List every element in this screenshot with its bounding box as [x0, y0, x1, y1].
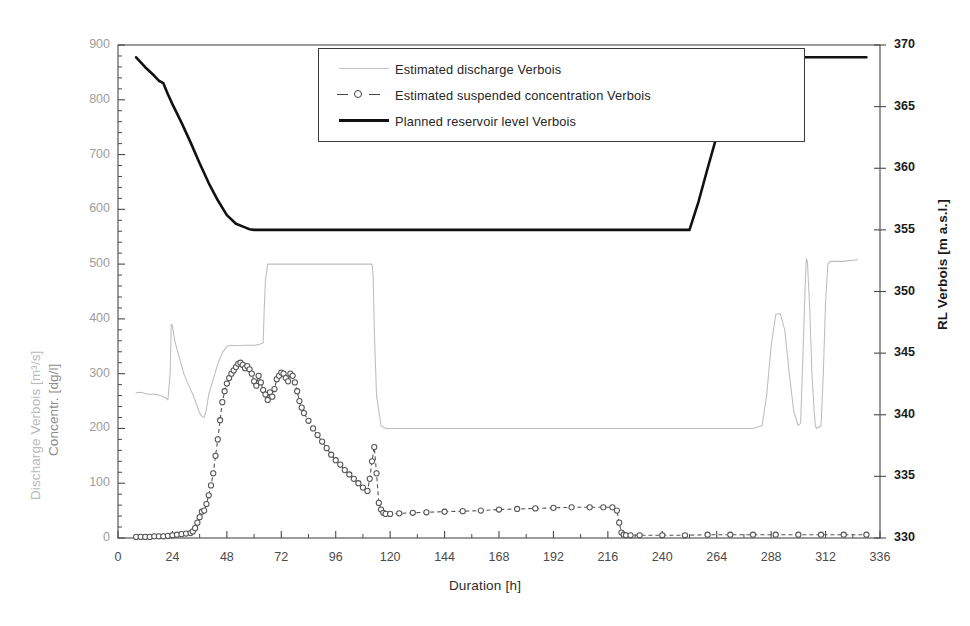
legend-item-discharge: Estimated discharge Verbois: [319, 56, 804, 82]
legend-label-discharge: Estimated discharge Verbois: [395, 62, 561, 77]
chart-legend: Estimated discharge Verbois Estimated su…: [318, 48, 805, 142]
legend-item-reservoir-level: Planned reservoir level Verbois: [319, 108, 804, 134]
legend-label-reservoir-level: Planned reservoir level Verbois: [395, 114, 576, 129]
legend-key-concentration-marker: [333, 88, 395, 102]
legend-key-discharge-line: [333, 62, 395, 76]
chart-figure: Discharge Verbois [m³/s] Concentr. [dg/l…: [0, 0, 970, 626]
legend-key-reservoir-line: [333, 114, 395, 128]
legend-item-concentration: Estimated suspended concentration Verboi…: [319, 82, 804, 108]
legend-label-concentration: Estimated suspended concentration Verboi…: [395, 88, 651, 103]
